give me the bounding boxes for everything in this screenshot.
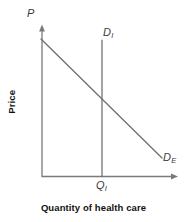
y-axis-title: Price xyxy=(7,74,17,130)
x-axis xyxy=(42,174,179,180)
quantity-individual-tick-label: QI xyxy=(96,180,107,191)
y-axis xyxy=(39,25,45,177)
plot-canvas xyxy=(0,0,187,222)
demand-efficient-subscript: E xyxy=(171,156,176,165)
demand-efficient-label: DE xyxy=(163,152,176,163)
x-axis-arrowhead-icon xyxy=(171,174,178,180)
demand-curve-figure: P DI DE QI Price Quantity of health care xyxy=(0,0,187,222)
x-axis-title: Quantity of health care xyxy=(0,203,187,213)
y-axis-variable-label: P xyxy=(27,8,34,19)
y-axis-arrowhead-icon xyxy=(39,25,45,32)
quantity-individual-subscript: I xyxy=(105,184,107,193)
demand-individual-label: DI xyxy=(103,27,113,38)
